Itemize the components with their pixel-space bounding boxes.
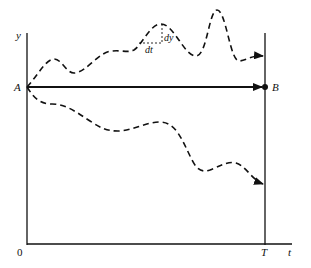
dy-label: dy [164,32,174,43]
point-B-dot [262,84,268,90]
y-axis-label: y [15,29,21,41]
point-B-label: B [272,81,279,93]
lower-path [27,87,263,184]
terminal-T-label: T [261,246,268,258]
dt-label: dt [145,44,153,55]
origin-label: 0 [17,246,23,258]
diagram: y A B 0 T t dt dy [0,0,311,268]
point-A-label: A [13,81,21,93]
diagram-canvas: y A B 0 T t dt dy [0,0,311,268]
t-axis-label: t [288,246,292,258]
